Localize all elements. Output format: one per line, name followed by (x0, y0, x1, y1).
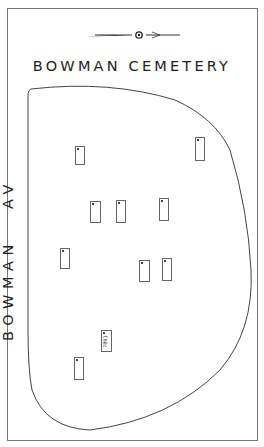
plot-marker-icon (197, 139, 199, 141)
plot-marker-icon (62, 250, 64, 252)
plot-marker-icon (161, 200, 163, 202)
grave-plot (159, 198, 169, 221)
plot-marker-icon (76, 359, 78, 361)
street-label: BOWMAN AV (0, 110, 20, 410)
plot-marker-icon (164, 260, 166, 262)
grave-plot (75, 146, 85, 165)
grave-plot (74, 357, 84, 380)
grave-plot (195, 137, 205, 161)
plot-marker-icon (141, 262, 143, 264)
grave-plot: 7891 (101, 330, 112, 352)
grave-plot (139, 260, 150, 282)
plot-marker-icon (118, 202, 120, 204)
grave-plot (60, 248, 70, 269)
north-arrow-icon (85, 32, 180, 38)
plot-marker-icon (77, 148, 79, 150)
grave-plot (116, 200, 126, 223)
grave-plot (90, 201, 101, 223)
plot-label: 7891 (102, 332, 111, 352)
map-title: BOWMAN CEMETERY (0, 58, 264, 74)
grave-plot (162, 258, 172, 281)
plot-marker-icon (92, 203, 94, 205)
